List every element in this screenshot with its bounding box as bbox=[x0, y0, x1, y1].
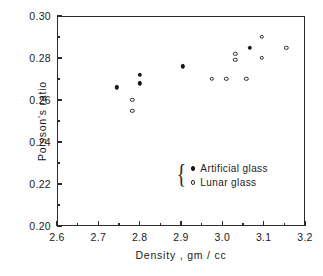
x-axis-tick bbox=[98, 221, 99, 226]
x-axis-tick-label: 3.0 bbox=[215, 231, 231, 243]
y-axis-minor-tick bbox=[57, 204, 60, 205]
poissons-ratio-vs-density-chart: 2.62.72.82.93.03.13.20.200.220.240.260.2… bbox=[0, 0, 323, 276]
plot-frame bbox=[57, 16, 305, 226]
legend-label: Artificial glass bbox=[200, 163, 268, 174]
legend-label: Lunar glass bbox=[200, 177, 256, 188]
x-axis-minor-tick bbox=[118, 223, 119, 226]
y-axis-minor-tick bbox=[57, 162, 60, 163]
y-axis-tick-label: 0.30 bbox=[29, 10, 51, 22]
legend-item-artificial-glass: Artificial glass bbox=[191, 163, 268, 174]
x-axis-minor-tick bbox=[201, 223, 202, 226]
y-axis-tick-label: 0.22 bbox=[29, 178, 51, 190]
y-axis-tick bbox=[57, 99, 62, 100]
x-axis-tick-label: 2.7 bbox=[91, 231, 107, 243]
x-axis-minor-tick bbox=[160, 223, 161, 226]
x-axis-tick-label: 2.9 bbox=[173, 231, 189, 243]
x-axis-tick bbox=[263, 221, 264, 226]
filled-circle-icon bbox=[191, 166, 195, 170]
x-axis-tick-label: 2.6 bbox=[49, 231, 65, 243]
x-axis-minor-tick bbox=[284, 223, 285, 226]
y-axis-minor-tick bbox=[57, 120, 60, 121]
legend-brace: { bbox=[177, 161, 187, 188]
y-axis-minor-tick bbox=[57, 78, 60, 79]
x-axis-minor-tick bbox=[242, 223, 243, 226]
x-axis-tick bbox=[222, 221, 223, 226]
y-axis-tick bbox=[57, 57, 62, 58]
x-axis-label: Density , gm / cc bbox=[57, 249, 305, 261]
y-axis-tick-label: 0.28 bbox=[29, 52, 51, 64]
legend-item-lunar-glass: Lunar glass bbox=[191, 177, 268, 188]
open-circle-icon bbox=[191, 180, 195, 184]
legend-entries: Artificial glass Lunar glass bbox=[191, 163, 268, 188]
y-axis-minor-tick bbox=[57, 36, 60, 37]
x-axis-minor-tick bbox=[77, 223, 78, 226]
x-axis-tick bbox=[139, 221, 140, 226]
y-axis-tick bbox=[57, 15, 62, 16]
x-axis-tick bbox=[304, 221, 305, 226]
x-axis-tick-label: 3.1 bbox=[256, 231, 272, 243]
x-axis-tick bbox=[180, 221, 181, 226]
y-axis-label: Poisson's ratio bbox=[36, 81, 48, 161]
y-axis-tick bbox=[57, 141, 62, 142]
legend: { Artificial glass Lunar glass bbox=[175, 163, 268, 188]
y-axis-tick bbox=[57, 183, 62, 184]
x-axis-tick-label: 3.2 bbox=[297, 231, 313, 243]
y-axis-tick bbox=[57, 225, 62, 226]
y-axis-tick-label: 0.20 bbox=[29, 220, 51, 232]
x-axis-tick-label: 2.8 bbox=[132, 231, 148, 243]
